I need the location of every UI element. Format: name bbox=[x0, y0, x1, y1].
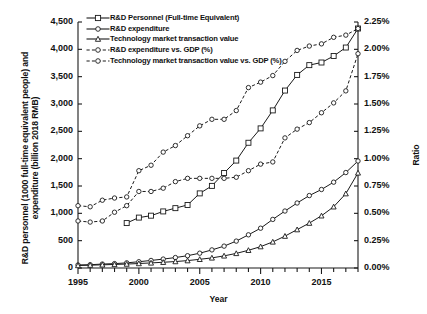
data-point bbox=[173, 179, 177, 183]
data-point bbox=[149, 163, 153, 167]
data-point bbox=[112, 210, 116, 214]
data-point bbox=[124, 221, 129, 226]
data-point bbox=[76, 219, 80, 223]
data-point bbox=[258, 80, 262, 84]
data-point bbox=[234, 158, 239, 163]
data-point bbox=[185, 134, 189, 138]
legend-marker-triangle-icon bbox=[86, 34, 110, 44]
data-point bbox=[161, 150, 165, 154]
data-point bbox=[307, 193, 311, 197]
legend-label: Technology market transaction value bbox=[110, 34, 238, 44]
data-point bbox=[197, 257, 202, 262]
data-point bbox=[234, 239, 238, 243]
data-point bbox=[210, 248, 214, 252]
data-point bbox=[331, 180, 335, 184]
data-point bbox=[88, 220, 92, 224]
data-point bbox=[173, 259, 178, 264]
data-point bbox=[197, 191, 202, 196]
data-point bbox=[246, 248, 251, 253]
data-point bbox=[222, 117, 226, 121]
data-point bbox=[149, 213, 154, 218]
data-point bbox=[173, 206, 178, 211]
data-point bbox=[356, 170, 361, 175]
data-point bbox=[100, 198, 104, 202]
legend-label: R&D Personnel (Full-time Equivalent) bbox=[110, 13, 239, 23]
data-point bbox=[234, 251, 239, 256]
series-line bbox=[78, 54, 358, 222]
data-point bbox=[209, 183, 214, 188]
data-point bbox=[319, 60, 324, 65]
data-point bbox=[356, 26, 360, 30]
data-point bbox=[198, 176, 202, 180]
data-point bbox=[185, 176, 189, 180]
data-point bbox=[198, 124, 202, 128]
data-point bbox=[271, 217, 275, 221]
data-point bbox=[258, 244, 263, 249]
data-point bbox=[295, 72, 300, 77]
data-point bbox=[210, 176, 214, 180]
data-point bbox=[258, 126, 263, 131]
data-point bbox=[295, 227, 300, 232]
data-point bbox=[356, 159, 360, 163]
data-point bbox=[282, 88, 287, 93]
data-point bbox=[344, 89, 348, 93]
data-point bbox=[124, 203, 128, 207]
series-2 bbox=[76, 170, 361, 267]
legend-label: R&D expenditure bbox=[110, 24, 169, 34]
series-1 bbox=[76, 159, 360, 267]
legend-marker-circle-icon bbox=[86, 45, 110, 55]
data-point bbox=[149, 189, 153, 193]
data-point bbox=[222, 176, 226, 180]
data-point bbox=[295, 127, 299, 131]
data-point bbox=[270, 239, 275, 244]
legend-label: Technology market transaction value vs. … bbox=[110, 56, 282, 66]
data-point bbox=[307, 221, 312, 226]
legend-label: R&D expenditure vs. GDP (%) bbox=[110, 45, 213, 55]
data-point bbox=[270, 108, 275, 113]
data-point bbox=[234, 175, 238, 179]
data-point bbox=[137, 168, 141, 172]
data-point bbox=[198, 251, 202, 255]
chart-legend: R&D Personnel (Full-time Equivalent)R&D … bbox=[86, 13, 316, 66]
data-point bbox=[331, 35, 335, 39]
legend-item-3: R&D expenditure vs. GDP (%) bbox=[86, 45, 316, 56]
data-point bbox=[161, 209, 166, 214]
data-point bbox=[246, 233, 250, 237]
data-point bbox=[209, 255, 214, 260]
legend-marker-circle-icon bbox=[86, 24, 110, 34]
data-point bbox=[185, 258, 190, 263]
data-point bbox=[344, 33, 348, 37]
data-point bbox=[124, 195, 128, 199]
data-point bbox=[222, 244, 226, 248]
data-point bbox=[246, 168, 250, 172]
legend-marker-square-icon bbox=[86, 13, 110, 23]
data-point bbox=[283, 136, 287, 140]
legend-item-0: R&D Personnel (Full-time Equivalent) bbox=[86, 13, 316, 24]
data-point bbox=[234, 108, 238, 112]
legend-item-1: R&D expenditure bbox=[86, 24, 316, 35]
data-point bbox=[210, 117, 214, 121]
data-point bbox=[100, 219, 104, 223]
data-point bbox=[283, 209, 287, 213]
data-point bbox=[76, 203, 80, 207]
data-point bbox=[136, 215, 141, 220]
data-point bbox=[343, 45, 348, 50]
data-point bbox=[331, 101, 335, 105]
series-line bbox=[78, 173, 358, 266]
data-point bbox=[282, 234, 287, 239]
data-point bbox=[88, 205, 92, 209]
data-point bbox=[112, 196, 116, 200]
data-point bbox=[319, 187, 323, 191]
data-point bbox=[271, 160, 275, 164]
data-point bbox=[246, 140, 251, 145]
data-point bbox=[137, 189, 141, 193]
legend-item-4: Technology market transaction value vs. … bbox=[86, 55, 316, 66]
data-point bbox=[258, 162, 262, 166]
series-line bbox=[78, 161, 358, 265]
data-point bbox=[222, 253, 227, 258]
data-point bbox=[343, 191, 348, 196]
data-point bbox=[246, 85, 250, 89]
data-point bbox=[185, 202, 190, 207]
data-point bbox=[319, 111, 323, 115]
legend-marker-circle-icon bbox=[86, 56, 110, 66]
